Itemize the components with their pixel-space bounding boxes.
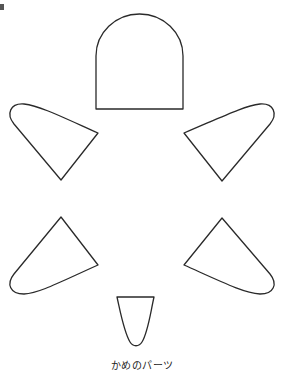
- tail-part: [117, 297, 154, 346]
- turtle-parts-diagram: [0, 0, 284, 376]
- front-left-flipper-part: [10, 104, 98, 180]
- back-left-flipper-part: [10, 217, 98, 294]
- front-right-flipper-part: [184, 104, 274, 181]
- back-right-flipper-part: [184, 218, 274, 294]
- head-part: [96, 14, 183, 109]
- diagram-caption: かめのパーツ: [0, 357, 284, 372]
